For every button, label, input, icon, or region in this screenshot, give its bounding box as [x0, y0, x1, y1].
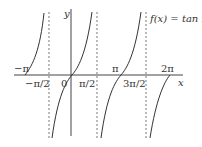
tan-graph: y x f(x) = tan x −π −π/2 0 π/2 π 3π/2 2π — [0, 0, 202, 147]
tick-neg-pi-2: −π/2 — [25, 78, 50, 89]
tick-pi-2: π/2 — [79, 78, 95, 89]
x-axis-label: x — [178, 77, 184, 88]
tick-zero: 0 — [61, 78, 67, 89]
tick-neg-pi: −π — [14, 63, 29, 74]
y-axis-label: y — [63, 8, 70, 19]
function-title: f(x) = tan x — [149, 13, 202, 24]
tick-3pi-2: 3π/2 — [123, 78, 146, 89]
tick-pi: π — [112, 63, 119, 74]
tick-2pi: 2π — [161, 63, 174, 74]
tan-branch-far-right — [150, 75, 170, 138]
